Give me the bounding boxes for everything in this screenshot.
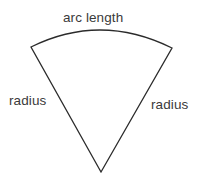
sector-shape <box>0 0 198 183</box>
circular-sector-figure: arc length radius radius <box>0 0 198 183</box>
radius-label-right: radius <box>151 97 188 112</box>
radius-label-left: radius <box>9 93 46 108</box>
arc-length-label: arc length <box>63 10 123 25</box>
